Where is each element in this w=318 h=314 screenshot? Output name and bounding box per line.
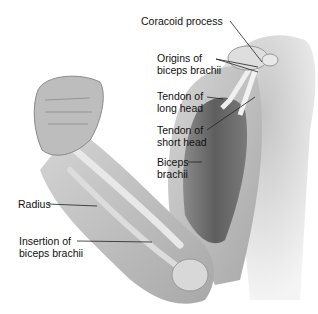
label-line: Biceps	[157, 156, 189, 168]
label-insertion-biceps: Insertion of biceps brachii	[19, 235, 83, 259]
coracoid-bone	[262, 54, 278, 66]
label-biceps-brachii: Biceps brachii	[157, 156, 189, 180]
label-origins-biceps: Origins of biceps brachii	[157, 52, 221, 76]
label-line: biceps brachii	[157, 64, 221, 76]
label-line: Tendon of	[157, 124, 207, 136]
label-coracoid-process: Coracoid process	[141, 15, 223, 27]
label-radius: Radius	[18, 198, 51, 210]
elbow	[172, 259, 208, 291]
label-line: Insertion of	[19, 235, 83, 247]
label-line: Tendon of	[157, 90, 203, 102]
label-tendon-long-head: Tendon of long head	[157, 90, 203, 114]
label-line: long head	[157, 102, 203, 114]
label-line: brachii	[157, 168, 189, 180]
label-tendon-short-head: Tendon of short head	[157, 124, 207, 148]
label-line: biceps brachii	[19, 247, 83, 259]
label-line: Origins of	[157, 52, 221, 64]
label-line: short head	[157, 136, 207, 148]
